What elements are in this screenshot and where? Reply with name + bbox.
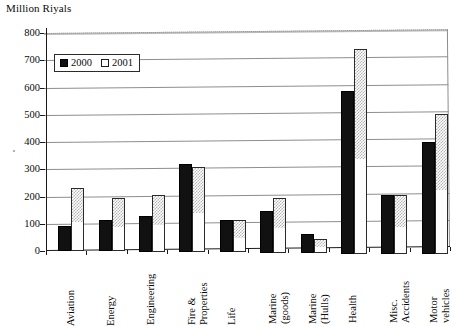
bar-2000: [99, 220, 112, 251]
x-axis-tick: [410, 248, 411, 252]
x-axis-category-label: Fire & Properties: [186, 259, 209, 325]
y-axis-tick-label: 500: [6, 110, 40, 120]
bar-group: [139, 33, 165, 251]
x-axis-category-label: Engineering: [145, 259, 157, 325]
x-axis-tick: [208, 250, 209, 254]
y-axis-tick-label: 700: [6, 55, 40, 65]
x-axis-tick: [248, 249, 249, 253]
x-axis-labels: AviationEnergyEngineeringFire & Properti…: [46, 256, 450, 322]
x-axis-category-label: Health: [347, 257, 359, 323]
scan-artifact: [13, 150, 15, 152]
x-axis-tick: [369, 248, 370, 252]
bar-group: [260, 33, 286, 251]
x-axis-tick: [127, 250, 128, 254]
bar-group: [422, 33, 448, 251]
bar-2000: [139, 216, 152, 251]
bar-2001: [112, 198, 125, 251]
bar-group: [381, 33, 407, 251]
bar-group: [220, 33, 246, 251]
bar-2000: [341, 91, 354, 253]
legend-swatch-2001-icon: [101, 59, 109, 67]
bar-2000: [422, 142, 435, 254]
chart-title: Million Riyals: [6, 2, 71, 14]
bar-2001: [435, 114, 448, 254]
y-axis-labels: 0100200300400500600700800: [0, 33, 40, 251]
x-axis-category-label: Marine (Hulls): [307, 258, 330, 324]
bar-2001: [354, 49, 367, 253]
bar-group: [301, 33, 327, 251]
y-axis-tick: [40, 224, 45, 225]
bar-2001: [71, 188, 84, 251]
x-axis-category-label: Life: [226, 259, 238, 325]
y-axis-tick-label: 600: [6, 83, 40, 93]
y-axis-tick-label: 800: [6, 28, 40, 38]
x-axis-tick: [329, 248, 330, 252]
bar-2000: [58, 226, 71, 251]
x-axis-category-label: Energy: [105, 260, 117, 326]
x-axis-category-label: Aviation: [65, 260, 77, 326]
legend-label-2001: 2001: [112, 57, 133, 68]
bar-2000: [220, 220, 233, 252]
x-axis-tick: [450, 247, 451, 251]
bar-2001: [273, 198, 286, 253]
bar-2001: [233, 220, 246, 252]
y-axis-tick-label: 400: [6, 137, 40, 147]
bar-group: [179, 33, 205, 251]
y-axis-tick-label: 100: [6, 219, 40, 229]
chart-legend: 2000 2001: [54, 54, 140, 72]
bar-2001: [152, 195, 165, 252]
x-axis-tick: [167, 250, 168, 254]
x-axis-tick: [288, 249, 289, 253]
legend-item-2000: 2000: [60, 57, 92, 68]
bar-2000: [179, 164, 192, 252]
x-axis-category-label: Misc. Accidents: [388, 257, 411, 323]
bar-2000: [260, 211, 273, 253]
bar-2000: [381, 195, 394, 254]
x-axis-tick: [86, 251, 87, 255]
y-axis-tick: [40, 251, 45, 252]
y-axis-tick-label: 200: [6, 192, 40, 202]
y-axis-tick-label: 300: [6, 164, 40, 174]
x-axis-category-label: Motor vehicles: [428, 257, 451, 323]
x-axis-category-label: Marine (goods): [267, 258, 290, 324]
x-axis-tick: [46, 251, 47, 255]
y-axis-tick-label: 0: [6, 246, 40, 256]
legend-swatch-2000-icon: [60, 59, 68, 67]
y-axis-tick: [40, 197, 45, 198]
legend-item-2001: 2001: [101, 57, 133, 68]
bar-2001: [394, 195, 407, 254]
legend-label-2000: 2000: [71, 57, 92, 68]
bar-2001: [192, 167, 205, 252]
bar-group: [341, 33, 367, 251]
